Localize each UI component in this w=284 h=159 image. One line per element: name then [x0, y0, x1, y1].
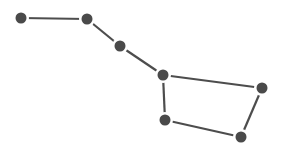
star-node-icon [257, 83, 268, 94]
star-node-icon [115, 41, 126, 52]
star-node-icon [158, 70, 169, 81]
connector-line [163, 75, 262, 88]
connector-line [21, 18, 87, 19]
star-node-icon [16, 13, 27, 24]
constellation-diagram [0, 0, 284, 159]
constellation-lines [21, 18, 262, 137]
star-node-icon [82, 14, 93, 25]
connector-line [165, 120, 241, 137]
constellation-stars [13, 10, 270, 145]
star-node-icon [236, 132, 247, 143]
star-node-icon [160, 115, 171, 126]
